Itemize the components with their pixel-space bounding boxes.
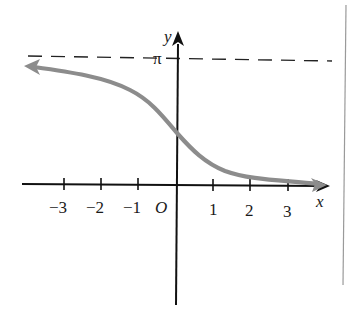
- curve-arccot: [34, 67, 318, 184]
- y-axis-arrow-icon: [172, 31, 184, 46]
- pi-label: π: [153, 49, 162, 68]
- y-axis-label: y: [162, 27, 172, 46]
- y-axis: [176, 44, 178, 305]
- x-tick-label-1: 1: [209, 200, 218, 219]
- x-tick-label-neg1: −1: [123, 198, 141, 217]
- x-axis: [22, 184, 322, 186]
- x-tick-label-2: 2: [245, 201, 254, 220]
- x-tick-label-neg3: −3: [49, 198, 67, 217]
- x-tick-label-neg2: −2: [86, 198, 104, 217]
- asymptote-pi-dashed: [28, 56, 332, 61]
- page-edge-line: [343, 5, 346, 285]
- graph-canvas: y π x O −3 −2 −1 1 2 3: [0, 0, 361, 333]
- x-axis-label: x: [315, 192, 324, 211]
- x-tick-label-3: 3: [283, 202, 292, 221]
- origin-label: O: [155, 198, 167, 217]
